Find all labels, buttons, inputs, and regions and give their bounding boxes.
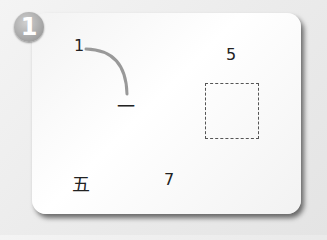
start-number: 1 [74, 36, 84, 55]
chinese-five-char: 五 [72, 170, 90, 196]
number-seven: 7 [164, 170, 174, 189]
answer-box[interactable] [205, 83, 259, 139]
target-number: 5 [226, 45, 236, 64]
match-arc-line [0, 0, 327, 235]
chinese-one-char: 一 [117, 92, 135, 118]
